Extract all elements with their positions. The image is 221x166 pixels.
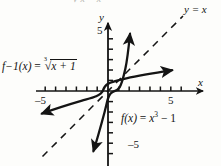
identity-line-y-equals-x (43, 16, 184, 157)
y-axis-label: y (99, 12, 104, 23)
function-equals-sign: = (140, 112, 147, 124)
inverse-function-name: f−1(x) (2, 60, 31, 72)
function-equation: f(x) = x3 − 1 (121, 113, 176, 125)
identity-line-label: y = x (184, 4, 207, 15)
x-axis-label: x (198, 77, 203, 88)
plot-canvas (0, 0, 221, 166)
function-constant-term: − 1 (161, 112, 176, 124)
function-exponent: 3 (154, 110, 158, 119)
cube-root-radical: 3 √x + 1 (44, 60, 77, 73)
y-tick-label-minus-5: –5 (128, 139, 139, 150)
x-tick-label-5: 5 (168, 95, 174, 106)
inverse-equals-sign: = (34, 60, 41, 72)
math-figure: ∛ x − x (0, 0, 221, 166)
x-tick-label-minus-5: –5 (35, 95, 46, 106)
radicand: x + 1 (50, 59, 76, 72)
function-name: f(x) (121, 112, 137, 124)
radical-index: 3 (44, 56, 47, 63)
inverse-function-equation: f−1(x) = 3 √x + 1 (2, 60, 77, 73)
y-tick-label-5: 5 (97, 25, 103, 36)
